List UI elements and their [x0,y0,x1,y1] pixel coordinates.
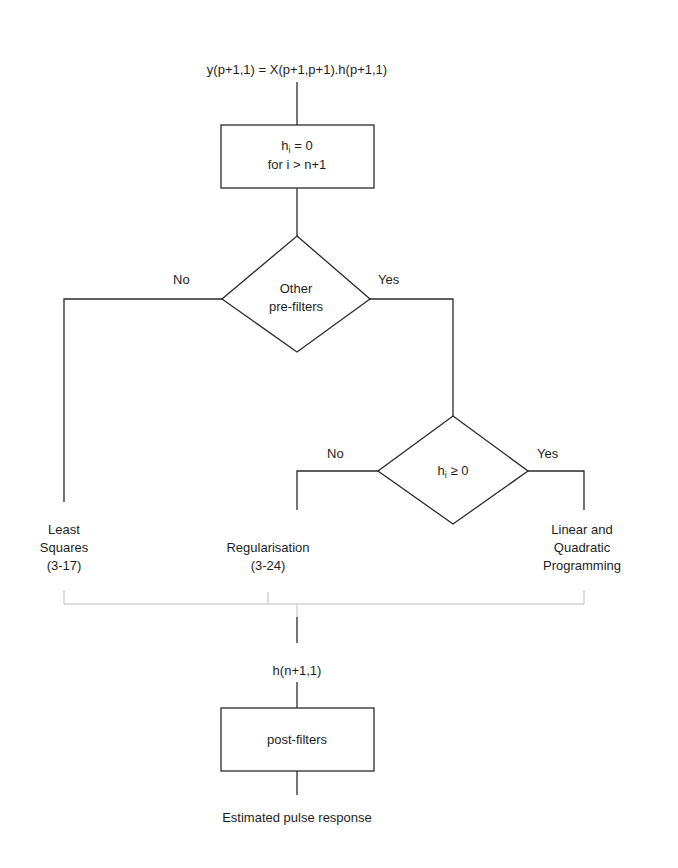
merged-output: h(n+1,1) [273,663,322,679]
decision1-yes-label: Yes [378,272,399,288]
least-squares-line2: Squares [40,540,88,556]
connector-decision1-no [64,299,222,502]
post-filters-label: post-filters [267,732,327,748]
decision2-yes-label: Yes [537,446,558,462]
connector-decision2-yes [528,471,584,510]
lp-qp-line2: Quadratic [554,540,610,556]
decision1-line2: pre-filters [269,299,323,315]
least-squares-line3: (3-17) [47,558,82,574]
connector-decision2-no [297,471,378,510]
merge-bracket [64,590,584,604]
lp-qp-line1: Linear and [551,522,612,538]
final-output: Estimated pulse response [222,810,372,826]
constraint-line2: for i > n+1 [268,157,327,173]
decision1-no-label: No [173,272,190,288]
lp-qp-line3: Programming [543,558,621,574]
connector-decision1-yes [370,299,453,416]
regularisation-line1: Regularisation [226,540,309,556]
input-equation: y(p+1,1) = X(p+1,p+1).h(p+1,1) [207,62,387,78]
flowchart-connectors [0,0,678,868]
constraint-line1: hi = 0 [281,138,312,154]
regularisation-line2: (3-24) [251,558,286,574]
decision2-no-label: No [327,446,344,462]
decision2-condition: hi ≥ 0 [438,463,469,479]
least-squares-line1: Least [48,522,80,538]
decision1-line1: Other [280,281,313,297]
